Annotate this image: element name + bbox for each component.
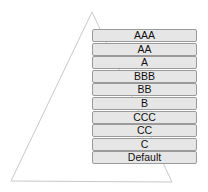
rating-box-aa: AA	[92, 43, 197, 56]
rating-box-default: Default	[92, 151, 197, 164]
rating-box-aaa: AAA	[92, 29, 197, 42]
rating-box-cc: CC	[92, 124, 197, 137]
rating-box-bbb: BBB	[92, 70, 197, 83]
rating-scale-stack: AAA AA A BBB BB B CCC CC C Default	[92, 29, 197, 165]
rating-box-a: A	[92, 56, 197, 69]
rating-box-c: C	[92, 138, 197, 151]
rating-box-ccc: CCC	[92, 111, 197, 124]
rating-box-bb: BB	[92, 83, 197, 96]
rating-box-b: B	[92, 97, 197, 110]
